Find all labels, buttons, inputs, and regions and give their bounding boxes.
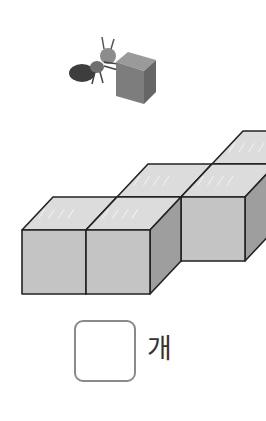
unit-label: 개	[147, 333, 172, 365]
cube-top-face	[212, 131, 266, 164]
ant-thorax	[90, 61, 104, 73]
answer-input-box[interactable]	[74, 320, 136, 382]
cube-figure	[22, 131, 266, 294]
cube-front-face	[181, 197, 245, 261]
small-cube-icon	[116, 52, 156, 104]
cube-front-face	[22, 230, 86, 294]
ant-antenna-icon	[102, 37, 114, 49]
ant-head	[100, 48, 116, 64]
ant-illustration	[69, 37, 118, 84]
cube-front-face	[86, 230, 150, 294]
